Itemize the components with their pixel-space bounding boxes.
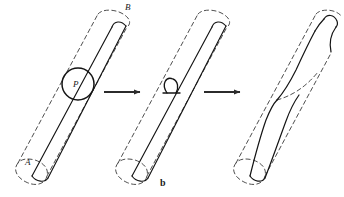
label-point-p: P bbox=[73, 80, 79, 89]
label-point-a: A bbox=[25, 158, 31, 167]
label-point-b: B bbox=[125, 3, 131, 12]
diagram-canvas bbox=[0, 0, 344, 197]
figure-caption: b bbox=[160, 178, 166, 188]
figure-container: B A P b bbox=[0, 0, 344, 197]
